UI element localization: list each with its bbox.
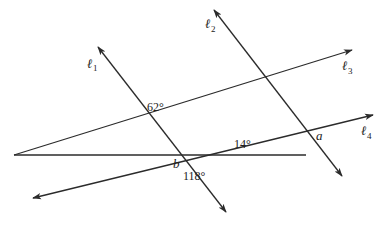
- svg-text:4: 4: [367, 131, 372, 141]
- angle-62: 62°: [147, 100, 164, 114]
- angle-14: 14°: [234, 137, 251, 151]
- angle-118: 118°: [183, 169, 206, 183]
- label-l2: ℓ 2: [205, 16, 216, 34]
- line-l2: [214, 10, 342, 176]
- line-l1: [98, 47, 226, 212]
- svg-text:2: 2: [211, 24, 216, 34]
- geometry-diagram: ℓ 1 ℓ 2 ℓ 3 ℓ 4 62° 118° 14° b a: [0, 0, 387, 225]
- svg-text:3: 3: [348, 66, 353, 76]
- label-l4: ℓ 4: [361, 123, 372, 141]
- variable-a: a: [316, 128, 323, 143]
- label-l1: ℓ 1: [87, 56, 98, 73]
- line-l3: [14, 50, 352, 155]
- svg-text:1: 1: [93, 63, 98, 73]
- variable-b: b: [173, 156, 180, 171]
- label-l3: ℓ 3: [342, 58, 353, 76]
